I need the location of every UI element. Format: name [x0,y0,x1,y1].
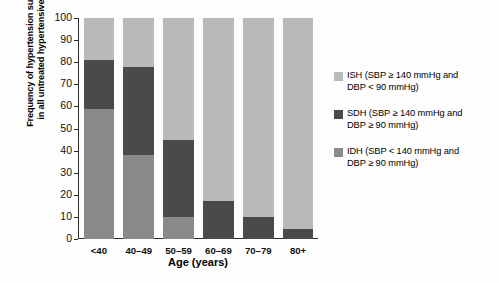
bar-segment-ish [123,18,154,67]
stacked-bar [243,18,274,239]
chart-figure: Frequency of hypertension subtypes in al… [0,0,499,283]
stacked-bar [163,18,194,239]
y-tick-mark [74,239,78,240]
bar-segment-ish [283,18,314,229]
plot-area: 0102030405060708090100 <4040–4950–5960–6… [78,18,318,239]
y-tick-label: 20 [32,188,72,200]
y-tick-label: 80 [32,55,72,67]
bar-slot [119,18,159,239]
y-tick-mark [74,173,78,174]
legend-item: IDH (SBP < 140 mmHg andDBP ≥ 90 mmHg) [334,146,494,169]
x-tick-label: 40–49 [119,240,159,256]
x-tick-label: 60–69 [198,240,238,256]
x-axis-title: Age (years) [78,256,318,268]
x-tick-label: 70–79 [238,240,278,256]
legend-swatch-sdh [334,110,343,119]
x-tick-label: <40 [79,240,119,256]
legend-swatch-idh [334,148,343,157]
y-tick-mark [74,195,78,196]
y-tick-mark [74,18,78,19]
bar-segment-sdh [283,229,314,239]
bar-segment-ish [203,18,234,201]
bar-segment-sdh [243,217,274,239]
bar-segment-idh [123,155,154,239]
legend-label: IDH (SBP < 140 mmHg andDBP ≥ 90 mmHg) [347,146,459,169]
bar-segment-sdh [203,201,234,239]
x-tick-label: 50–59 [159,240,199,256]
y-tick-mark [74,84,78,85]
y-tick-mark [74,62,78,63]
stacked-bar [203,18,234,239]
bar-segment-sdh [123,67,154,155]
y-tick-label: 60 [32,99,72,111]
y-tick-label: 40 [32,144,72,156]
bar-segment-ish [84,18,115,60]
bar-slot [79,18,119,239]
bar-slot [238,18,278,239]
y-tick-label: 70 [32,77,72,89]
y-tick-label: 10 [32,210,72,222]
bar-slot [278,18,318,239]
y-tick-label: 90 [32,33,72,45]
y-tick-label: 0 [32,232,72,244]
legend-label: SDH (SBP ≥ 140 mmHg andDBP ≥ 90 mmHg) [347,108,462,131]
y-tick-label: 30 [32,166,72,178]
y-tick-mark [74,151,78,152]
chart-legend: ISH (SBP ≥ 140 mmHg andDBP < 90 mmHg)SDH… [334,70,494,185]
bar-segment-ish [243,18,274,217]
bar-segment-ish [163,18,194,140]
legend-item: SDH (SBP ≥ 140 mmHg andDBP ≥ 90 mmHg) [334,108,494,131]
bar-group [79,18,318,239]
bar-segment-idh [163,217,194,239]
bar-slot [198,18,238,239]
stacked-bar [123,18,154,239]
legend-label: ISH (SBP ≥ 140 mmHg andDBP < 90 mmHg) [347,70,458,93]
x-tick-label: 80+ [278,240,318,256]
bar-segment-sdh [163,140,194,217]
y-tick-label: 100 [32,11,72,23]
y-tick-mark [74,106,78,107]
bar-segment-sdh [84,60,115,109]
x-axis-ticks: <4040–4950–5960–6970–7980+ [79,240,318,256]
y-tick-mark [74,129,78,130]
y-tick-label: 50 [32,122,72,134]
bar-slot [159,18,199,239]
legend-swatch-ish [334,72,343,81]
y-tick-mark [74,40,78,41]
y-tick-mark [74,217,78,218]
bar-segment-idh [84,109,115,239]
stacked-bar [283,18,314,239]
stacked-bar [84,18,115,239]
legend-item: ISH (SBP ≥ 140 mmHg andDBP < 90 mmHg) [334,70,494,93]
